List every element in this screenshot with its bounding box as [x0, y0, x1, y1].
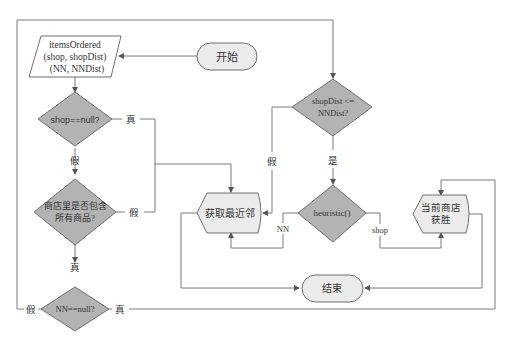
shop-null-decision[interactable]: shop==null?: [38, 92, 112, 146]
get-neighbor-label: 获取最近邻: [205, 207, 255, 219]
contains-all-diamond: [34, 179, 116, 245]
end-node[interactable]: 结束: [302, 275, 363, 302]
input-line-2: (shop, shopDist): [44, 52, 107, 63]
flowchart-canvas: 开始 itemsOrdered (shop, shopDist) (NN, NN…: [0, 0, 513, 340]
input-node[interactable]: itemsOrdered (shop, shopDist) (NN, NNDis…: [29, 36, 121, 77]
heuristic-decision[interactable]: heuristic(): [298, 185, 366, 242]
label-compare-true: 是: [328, 156, 338, 166]
label-shop-null-false: 假: [70, 155, 80, 166]
shop-null-label: shop==null?: [50, 115, 99, 125]
start-label: 开始: [216, 50, 238, 63]
input-line-1: itemsOrdered: [49, 40, 101, 50]
label-contains-true: 真: [70, 262, 80, 273]
contains-all-line-1: 商店里是否包含: [44, 200, 107, 211]
get-neighbor-node[interactable]: 获取最近邻: [197, 193, 261, 233]
dist-compare-line-2: NNDist?: [318, 108, 348, 118]
label-nn-null-true: 真: [115, 304, 125, 315]
edge-shop-null-true: [112, 119, 231, 192]
input-line-3: (NN, NNDist): [50, 64, 104, 75]
label-compare-false: 假: [267, 156, 277, 167]
shop-wins-node[interactable]: 当前商店 获胜: [413, 195, 469, 233]
shop-wins-line-1: 当前商店: [421, 202, 461, 213]
nn-null-decision[interactable]: NN==null?: [41, 287, 109, 331]
label-heuristic-nn: NN: [277, 224, 289, 234]
label-shop-null-true: 真: [126, 114, 136, 125]
edge-contains-false: [116, 164, 155, 212]
contains-all-decision[interactable]: 商店里是否包含 所有商品?: [34, 179, 116, 245]
nn-null-label: NN==null?: [56, 304, 95, 314]
heuristic-label: heuristic(): [314, 208, 351, 218]
shop-wins-shape: [413, 195, 469, 233]
shop-wins-line-2: 获胜: [431, 215, 451, 225]
label-nn-null-false: 假: [26, 304, 36, 315]
label-contains-false: 假: [129, 207, 139, 218]
flowchart-svg: 开始 itemsOrdered (shop, shopDist) (NN, NN…: [0, 0, 513, 340]
dist-compare-decision[interactable]: shopDist <= NNDist?: [292, 79, 372, 136]
end-label: 结束: [322, 282, 342, 294]
dist-compare-line-1: shopDist <=: [312, 96, 354, 106]
contains-all-line-2: 所有商品?: [55, 212, 95, 223]
start-node[interactable]: 开始: [197, 43, 257, 70]
label-heuristic-shop: shop: [372, 225, 388, 235]
